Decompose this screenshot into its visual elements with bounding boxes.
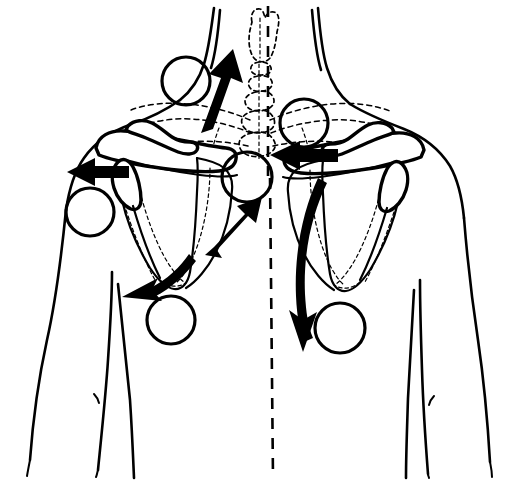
arrow-depression-right — [289, 178, 327, 352]
marker-deltoid-left[interactable] — [66, 188, 114, 236]
scapular-movement-diagram — [0, 0, 512, 498]
marker-inferior-angle-left[interactable] — [147, 296, 195, 344]
anatomical-figure — [0, 0, 512, 498]
marker-upper-trapezius-left[interactable] — [162, 57, 210, 105]
left-scapula — [96, 121, 236, 289]
movement-arrows-group — [67, 49, 338, 352]
vertical-midline-dashed — [268, 6, 273, 478]
marker-inferior-angle-right[interactable] — [315, 303, 365, 353]
spinous-process-column-dashed — [239, 9, 279, 160]
arrow-upward-rotation-medial — [205, 197, 262, 258]
marker-levator-scapulae-right[interactable] — [280, 99, 328, 147]
